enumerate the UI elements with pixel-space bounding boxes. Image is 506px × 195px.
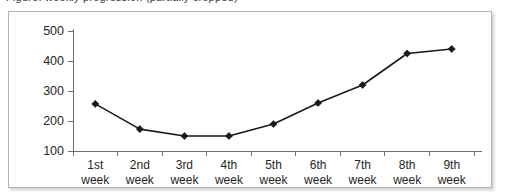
x-tick-label: week bbox=[214, 173, 244, 187]
chart-figure-frame: 100200300400500 1stweek2ndweek3rdweek4th… bbox=[8, 11, 492, 188]
x-tick-label: 8th bbox=[399, 158, 416, 172]
x-tick-label: week bbox=[80, 173, 110, 187]
data-point-marker bbox=[181, 132, 188, 139]
x-tick-label: 7th bbox=[354, 158, 371, 172]
data-point-marker bbox=[270, 120, 277, 127]
y-axis bbox=[68, 29, 73, 151]
cropped-caption-strip: Figure: weekly progression (partially cr… bbox=[0, 0, 506, 9]
data-point-marker bbox=[136, 126, 143, 133]
caption-text: Figure: weekly progression (partially cr… bbox=[6, 0, 238, 3]
x-tick-labels: 1stweek2ndweek3rdweek4thweek5thweek6thwe… bbox=[80, 158, 466, 187]
x-tick-label: week bbox=[303, 173, 333, 187]
x-tick-label: week bbox=[258, 173, 288, 187]
data-point-marker bbox=[225, 132, 232, 139]
x-tick-label: week bbox=[169, 173, 199, 187]
y-tick-label: 300 bbox=[43, 84, 64, 98]
data-point-marker bbox=[314, 99, 321, 106]
y-tick-label: 500 bbox=[43, 24, 64, 38]
x-tick-label: 4th bbox=[221, 158, 238, 172]
x-tick-label: 3rd bbox=[176, 158, 193, 172]
x-tick-label: week bbox=[437, 173, 467, 187]
x-tick-label: 2nd bbox=[130, 158, 150, 172]
data-point-marker bbox=[448, 45, 455, 52]
line-chart: 100200300400500 1stweek2ndweek3rdweek4th… bbox=[9, 12, 493, 189]
chart-canvas: 100200300400500 1stweek2ndweek3rdweek4th… bbox=[9, 12, 493, 189]
data-point-marker bbox=[92, 100, 99, 107]
x-tick-label: 9th bbox=[443, 158, 460, 172]
x-tick-label: 5th bbox=[265, 158, 282, 172]
x-tick-label: 1st bbox=[87, 158, 104, 172]
x-tick-label: week bbox=[125, 173, 155, 187]
y-tick-labels: 100200300400500 bbox=[43, 24, 64, 158]
y-tick-label: 200 bbox=[43, 114, 64, 128]
x-tick-label: week bbox=[348, 173, 378, 187]
y-tick-label: 100 bbox=[43, 144, 64, 158]
data-series bbox=[92, 45, 456, 139]
y-tick-label: 400 bbox=[43, 54, 64, 68]
x-axis bbox=[68, 151, 482, 156]
x-tick-label: 6th bbox=[310, 158, 327, 172]
x-tick-label: week bbox=[392, 173, 422, 187]
